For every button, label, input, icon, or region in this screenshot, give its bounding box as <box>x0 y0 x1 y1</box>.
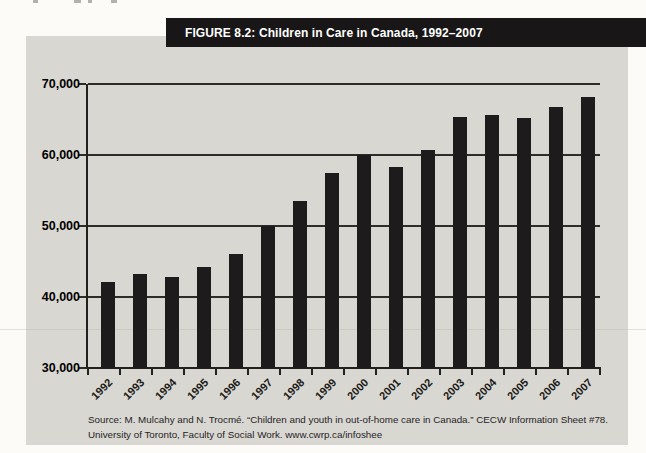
bar-2000 <box>357 155 371 368</box>
page-edge-artifact <box>111 0 117 3</box>
x-axis-tick <box>215 369 217 375</box>
bar-1997 <box>261 226 275 368</box>
bar-2007 <box>581 97 595 368</box>
source-note-line2: University of Toronto, Faculty of Social… <box>88 428 608 443</box>
scanned-figure-page: FIGURE 8.2: Children in Care in Canada, … <box>0 0 646 453</box>
gridline-70000 <box>88 83 600 85</box>
x-axis-tick <box>503 369 505 375</box>
figure-title-bar: FIGURE 8.2: Children in Care in Canada, … <box>166 18 646 47</box>
bar-1996 <box>229 254 243 368</box>
x-axis-tick <box>87 369 89 375</box>
bar-2001 <box>389 167 403 368</box>
x-axis-tick <box>599 369 601 375</box>
x-axis-tick <box>279 369 281 375</box>
x-axis-tick <box>119 369 121 375</box>
x-axis-tick <box>151 369 153 375</box>
x-axis-tick <box>407 369 409 375</box>
source-note-line1: Source: M. Mulcahy and N. Trocmé. “Child… <box>88 413 608 428</box>
bar-2002 <box>421 150 435 368</box>
y-axis-label: 40,000 <box>18 290 80 304</box>
y-axis-label: 50,000 <box>18 219 80 233</box>
page-edge-artifact <box>33 0 38 3</box>
bar-1995 <box>197 267 211 368</box>
x-axis-tick <box>471 369 473 375</box>
bar-2003 <box>453 117 467 368</box>
x-axis-tick <box>183 369 185 375</box>
x-axis-tick <box>535 369 537 375</box>
bar-2004 <box>485 115 499 368</box>
bar-1994 <box>165 277 179 368</box>
bar-1993 <box>133 274 147 368</box>
bar-1998 <box>293 201 307 368</box>
bar-2005 <box>517 118 531 368</box>
x-axis-tick <box>247 369 249 375</box>
y-axis-label: 70,000 <box>18 77 80 91</box>
x-axis-tick <box>375 369 377 375</box>
figure-title: FIGURE 8.2: Children in Care in Canada, … <box>185 26 483 40</box>
x-axis-tick <box>311 369 313 375</box>
page-edge-artifact <box>74 0 81 3</box>
bar-1992 <box>101 282 115 368</box>
page-edge-artifact <box>88 0 92 3</box>
x-axis-tick <box>439 369 441 375</box>
bar-2006 <box>549 107 563 368</box>
y-axis-label: 60,000 <box>18 148 80 162</box>
x-axis-tick <box>343 369 345 375</box>
bar-1999 <box>325 173 339 368</box>
y-axis-label: 30,000 <box>18 361 80 375</box>
source-note: Source: M. Mulcahy and N. Trocmé. “Child… <box>88 413 608 442</box>
x-axis-tick <box>567 369 569 375</box>
